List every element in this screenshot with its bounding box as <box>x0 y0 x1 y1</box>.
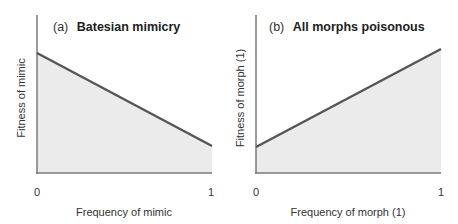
panel-b-y-axis-label: Fitness of morph (1) <box>234 49 246 147</box>
panel-a-title: (a) Batesian mimicry <box>53 17 180 34</box>
panel-b-x-axis-label: Frequency of morph (1) <box>291 206 406 218</box>
panel-b-area-fill <box>256 49 441 173</box>
panel-b-title: (b) All morphs poisonous <box>269 17 425 34</box>
panel-a-title-text: Batesian mimicry <box>77 20 181 34</box>
panel-b-xtick-0: 0 <box>253 186 259 198</box>
panel-b: (b) All morphs poisonous 0 1 Frequency o… <box>234 15 444 218</box>
panel-a: (a) Batesian mimicry 0 1 Frequency of mi… <box>15 15 214 218</box>
panel-a-label: (a) <box>53 20 68 34</box>
panel-b-title-text: All morphs poisonous <box>293 20 425 34</box>
panel-a-xtick-0: 0 <box>34 186 40 198</box>
figure: (a) Batesian mimicry 0 1 Frequency of mi… <box>0 0 458 224</box>
panel-b-label: (b) <box>269 20 284 34</box>
panel-a-area-fill <box>37 53 212 173</box>
panel-a-xtick-1: 1 <box>208 186 214 198</box>
panel-a-x-axis-label: Frequency of mimic <box>76 206 172 218</box>
panel-b-xtick-1: 1 <box>438 186 444 198</box>
panel-a-y-axis-label: Fitness of mimic <box>15 58 27 138</box>
